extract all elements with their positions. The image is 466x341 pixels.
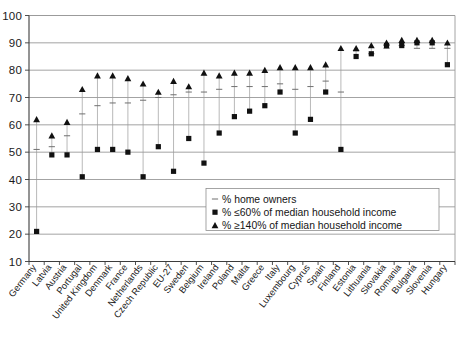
y-tick-label: 50 bbox=[9, 146, 22, 158]
legend-label: % ≤60% of median household income bbox=[222, 207, 397, 218]
y-tick-label: 100 bbox=[2, 10, 22, 22]
y-tick-label: 10 bbox=[9, 256, 22, 268]
marker-triangle bbox=[124, 75, 131, 81]
marker-square bbox=[110, 147, 115, 152]
y-tick-label: 90 bbox=[9, 37, 22, 49]
legend-entry-2: % ≤60% of median household income bbox=[212, 207, 396, 218]
marker-square bbox=[125, 150, 130, 155]
marker-square bbox=[445, 62, 450, 67]
marker-square bbox=[338, 147, 343, 152]
marker-square bbox=[49, 152, 54, 157]
y-tick-label: 60 bbox=[9, 119, 22, 131]
marker-triangle bbox=[414, 37, 421, 43]
marker-square bbox=[141, 174, 146, 179]
marker-triangle bbox=[155, 89, 162, 95]
marker-square bbox=[34, 229, 39, 234]
legend-entry-1: % home owners bbox=[212, 194, 297, 205]
marker-triangle bbox=[140, 80, 147, 86]
dot-plot-chart: 102030405060708090100GermanyLatviaAustri… bbox=[0, 0, 466, 341]
y-tick-label: 70 bbox=[9, 92, 22, 104]
marker-square bbox=[186, 136, 191, 141]
marker-square bbox=[262, 103, 267, 108]
marker-triangle bbox=[216, 72, 223, 78]
marker-square bbox=[369, 51, 374, 56]
marker-triangle bbox=[170, 78, 177, 84]
legend: % home owners% ≤60% of median household … bbox=[206, 189, 439, 232]
legend-entry-3: % ≥140% of median household income bbox=[212, 220, 403, 231]
marker-square bbox=[156, 144, 161, 149]
marker-square bbox=[232, 114, 237, 119]
marker-square bbox=[399, 43, 404, 48]
y-tick-label: 20 bbox=[9, 228, 22, 240]
marker-square bbox=[171, 169, 176, 174]
y-tick-label: 40 bbox=[9, 174, 22, 186]
legend-label: % home owners bbox=[222, 194, 297, 205]
marker-triangle bbox=[292, 64, 299, 70]
marker-square bbox=[247, 109, 252, 114]
y-tick-label: 80 bbox=[9, 64, 22, 76]
marker-triangle bbox=[33, 116, 40, 122]
marker-triangle bbox=[353, 45, 360, 51]
marker-triangle bbox=[307, 64, 314, 70]
marker-triangle bbox=[429, 37, 436, 43]
marker-triangle bbox=[398, 37, 405, 43]
marker-triangle bbox=[64, 119, 71, 125]
legend-label: % ≥140% of median household income bbox=[222, 220, 402, 231]
x-axis-labels: GermanyLatviaAustriaPortugalUnited Kingd… bbox=[7, 262, 455, 321]
marker-square bbox=[354, 54, 359, 59]
marker-square bbox=[201, 161, 206, 166]
marker-square bbox=[95, 147, 100, 152]
marker-square bbox=[212, 210, 217, 215]
marker-triangle bbox=[277, 64, 284, 70]
marker-square bbox=[80, 174, 85, 179]
marker-triangle bbox=[185, 83, 192, 89]
y-tick-label: 30 bbox=[9, 201, 22, 213]
chart-container: 102030405060708090100GermanyLatviaAustri… bbox=[0, 0, 466, 341]
series-triangle bbox=[33, 37, 451, 139]
marker-triangle bbox=[337, 45, 344, 51]
marker-triangle bbox=[109, 72, 116, 78]
marker-square bbox=[323, 89, 328, 94]
marker-square bbox=[308, 117, 313, 122]
marker-triangle bbox=[94, 72, 101, 78]
marker-square bbox=[277, 89, 282, 94]
marker-triangle bbox=[322, 61, 329, 67]
marker-triangle bbox=[79, 86, 86, 92]
marker-triangle bbox=[48, 132, 55, 138]
marker-square bbox=[64, 152, 69, 157]
marker-square bbox=[217, 130, 222, 135]
marker-square bbox=[293, 130, 298, 135]
